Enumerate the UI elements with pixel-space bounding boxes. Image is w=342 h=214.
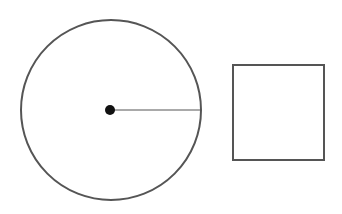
center-point: [105, 105, 115, 115]
square-shape: [233, 65, 324, 160]
diagram-canvas: [0, 0, 342, 214]
